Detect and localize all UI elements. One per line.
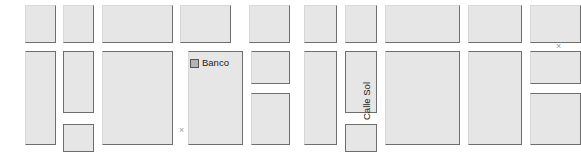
city-block [25,51,56,145]
city-block [63,5,94,43]
city-block [385,51,460,145]
right-map-panel[interactable]: Calle Sol× [291,0,581,152]
city-block [530,93,581,145]
city-block [304,51,337,145]
left-map-panel[interactable]: Banco× [0,0,290,152]
city-block [249,5,290,43]
map-comparison-screenshot: Banco× Calle Sol× [0,0,581,152]
city-block [468,51,522,145]
city-block [25,5,56,43]
city-block [102,5,173,43]
poi-label: Banco [202,58,229,68]
city-block [180,5,231,43]
city-block [468,5,522,43]
city-block [63,51,94,113]
city-block [530,51,581,84]
city-block [530,5,581,43]
city-block [251,93,290,145]
poi-banco[interactable]: Banco [190,58,229,68]
city-block [345,124,377,152]
city-block [102,51,173,145]
poi-marker-icon [190,59,199,68]
street-label-calle-sol: Calle Sol [362,82,372,120]
city-block [251,51,290,84]
city-block [345,5,377,43]
city-block [63,124,94,152]
intersection-x-icon: × [179,126,184,135]
city-block [385,5,460,43]
intersection-x-icon: × [556,42,561,51]
city-block [304,5,337,43]
